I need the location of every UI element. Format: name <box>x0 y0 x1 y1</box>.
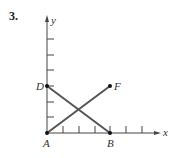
y-axis-arrow-icon <box>45 15 49 22</box>
label-B: B <box>107 137 114 149</box>
point-B <box>108 131 112 135</box>
y-ticks <box>47 39 54 117</box>
x-axis-arrow-icon <box>154 131 161 135</box>
y-axis-label: y <box>50 14 56 26</box>
point-F <box>108 84 112 88</box>
label-F: F <box>113 80 121 92</box>
x-axis-label: x <box>162 126 168 138</box>
point-A <box>45 131 49 135</box>
point-D <box>45 84 49 88</box>
label-D: D <box>35 80 44 92</box>
coordinate-diagram: y x A B D F <box>0 0 176 158</box>
label-A: A <box>42 137 50 149</box>
